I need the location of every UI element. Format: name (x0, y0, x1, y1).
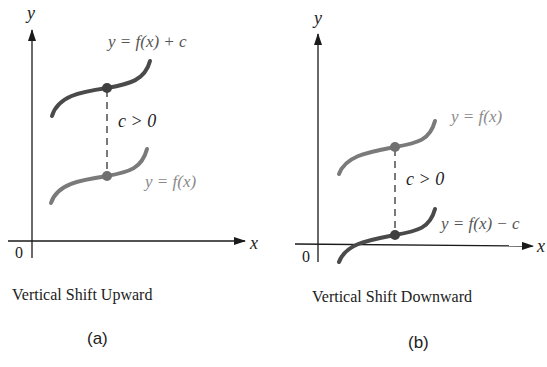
panel-b-gap-label: c > 0 (406, 169, 444, 189)
panel-a-x-axis-label: x (249, 233, 258, 253)
vertical-shift-diagram: y x 0 c > 0 y = f(x) + c y = f(x) y x 0 … (0, 0, 547, 367)
panel-b-shifted-point (390, 230, 400, 240)
panel-b-label: (b) (408, 333, 429, 353)
panel-a-upper-curve-label: y = f(x) + c (106, 32, 187, 51)
panel-a-lower-curve-label: y = f(x) (143, 172, 196, 191)
panel-b-original-point (390, 142, 400, 152)
panel-a-gap-label: c > 0 (118, 111, 156, 131)
panel-b-shifted-curve (339, 209, 435, 262)
panel-b-origin-label: 0 (302, 248, 310, 265)
panel-a-original-curve (51, 149, 147, 203)
panel-b-x-axis-label: x (536, 236, 545, 256)
panel-a-y-axis-label: y (25, 3, 35, 23)
panel-b-upper-curve-label: y = f(x) (449, 107, 502, 126)
panel-b-x-axis (295, 244, 533, 246)
panel-b-lower-curve-label: y = f(x) − c (439, 214, 520, 233)
panel-a-original-point (102, 171, 112, 181)
panel-a-origin-label: 0 (15, 244, 23, 261)
panel-a-caption: Vertical Shift Upward (12, 286, 152, 304)
panel-a-graph: y x 0 c > 0 y = f(x) + c y = f(x) (8, 3, 258, 261)
panel-b-y-axis-label: y (312, 8, 322, 28)
panel-b-original-curve (339, 121, 435, 174)
panel-b-caption: Vertical Shift Downward (312, 288, 472, 306)
panel-b-graph: y x 0 c > 0 y = f(x) y = f(x) − c (295, 8, 545, 265)
panel-a-shifted-point (102, 83, 112, 93)
panel-a-label: (a) (87, 329, 108, 349)
panel-a-shifted-curve (52, 61, 150, 116)
